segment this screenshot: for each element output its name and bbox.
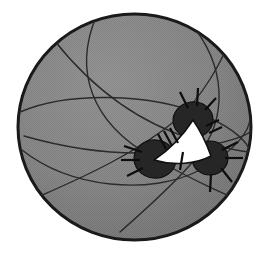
spike-right-4 <box>210 174 211 192</box>
sphere-group <box>18 14 251 240</box>
spherical-triangle-figure <box>0 0 268 255</box>
spike-top-2 <box>197 88 198 106</box>
figure-root <box>0 0 268 255</box>
